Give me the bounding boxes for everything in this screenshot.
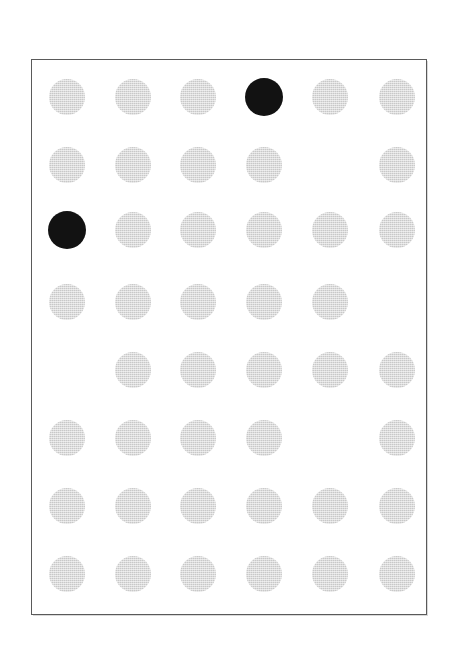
dot-r4-c5[interactable] xyxy=(312,284,348,320)
dot-r2-c3[interactable] xyxy=(180,147,216,183)
dot-r8-c5[interactable] xyxy=(312,556,348,592)
dot-r1-c4-marked[interactable] xyxy=(245,78,283,116)
page-canvas xyxy=(0,0,455,653)
dot-r5-c3[interactable] xyxy=(180,352,216,388)
dot-r8-c2[interactable] xyxy=(115,556,151,592)
dot-r7-c2[interactable] xyxy=(115,488,151,524)
dot-r7-c1[interactable] xyxy=(49,488,85,524)
dot-r6-c4[interactable] xyxy=(246,420,282,456)
dot-r6-c6[interactable] xyxy=(379,420,415,456)
dot-grid[interactable] xyxy=(32,60,426,614)
dot-r1-c5[interactable] xyxy=(312,79,348,115)
dot-r4-c4[interactable] xyxy=(246,284,282,320)
dot-r1-c3[interactable] xyxy=(180,79,216,115)
dot-r7-c3[interactable] xyxy=(180,488,216,524)
dot-r4-c1[interactable] xyxy=(49,284,85,320)
dot-r8-c3[interactable] xyxy=(180,556,216,592)
dot-r5-c4[interactable] xyxy=(246,352,282,388)
dot-r2-c2[interactable] xyxy=(115,147,151,183)
dot-r6-c3[interactable] xyxy=(180,420,216,456)
dot-r4-c2[interactable] xyxy=(115,284,151,320)
dot-r5-c6[interactable] xyxy=(379,352,415,388)
dot-r6-c2[interactable] xyxy=(115,420,151,456)
dot-r2-c1[interactable] xyxy=(49,147,85,183)
dot-r3-c5[interactable] xyxy=(312,212,348,248)
dot-r6-c1[interactable] xyxy=(49,420,85,456)
dot-r2-c4[interactable] xyxy=(246,147,282,183)
dot-r3-c6[interactable] xyxy=(379,212,415,248)
dot-r8-c6[interactable] xyxy=(379,556,415,592)
dot-r1-c2[interactable] xyxy=(115,79,151,115)
dot-grid-frame xyxy=(31,59,427,615)
dot-r3-c2[interactable] xyxy=(115,212,151,248)
dot-r7-c6[interactable] xyxy=(379,488,415,524)
dot-r7-c4[interactable] xyxy=(246,488,282,524)
dot-r3-c1-marked[interactable] xyxy=(48,211,86,249)
dot-r4-c3[interactable] xyxy=(180,284,216,320)
dot-r1-c6[interactable] xyxy=(379,79,415,115)
dot-r5-c5[interactable] xyxy=(312,352,348,388)
dot-r1-c1[interactable] xyxy=(49,79,85,115)
dot-r8-c1[interactable] xyxy=(49,556,85,592)
dot-r3-c3[interactable] xyxy=(180,212,216,248)
dot-r7-c5[interactable] xyxy=(312,488,348,524)
dot-r8-c4[interactable] xyxy=(246,556,282,592)
dot-r5-c2[interactable] xyxy=(115,352,151,388)
dot-r2-c6[interactable] xyxy=(379,147,415,183)
dot-r3-c4[interactable] xyxy=(246,212,282,248)
